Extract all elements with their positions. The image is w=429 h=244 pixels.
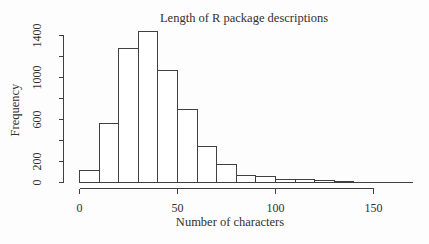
histogram-bar-120-130 xyxy=(315,181,335,183)
histogram-bar-60-70 xyxy=(197,147,217,183)
histogram-bar-50-60 xyxy=(178,109,198,183)
histogram-bar-110-120 xyxy=(295,180,315,183)
y-tick-label-600: 600 xyxy=(30,111,44,129)
x-tick-label-50: 50 xyxy=(172,201,184,215)
histogram-bar-130-140 xyxy=(334,181,354,182)
x-tick-label-150: 150 xyxy=(365,201,383,215)
histogram-plot-canvas: 020060010001400050100150 xyxy=(0,0,429,244)
histogram-bar-0-10 xyxy=(80,170,100,182)
x-tick-label-0: 0 xyxy=(77,201,83,215)
histogram-bar-20-30 xyxy=(119,48,139,182)
histogram-chart: 020060010001400050100150 Length of R pac… xyxy=(0,0,429,244)
chart-title: Length of R package descriptions xyxy=(59,11,429,25)
y-tick-label-200: 200 xyxy=(30,153,44,171)
histogram-bar-80-90 xyxy=(236,175,256,182)
histogram-bar-30-40 xyxy=(138,32,158,183)
x-tick-label-100: 100 xyxy=(267,201,285,215)
y-axis-label: Frequency xyxy=(8,60,22,160)
y-tick-label-0: 0 xyxy=(30,180,44,186)
y-tick-label-1000: 1000 xyxy=(30,66,44,90)
y-tick-label-1400: 1400 xyxy=(30,24,44,48)
histogram-bar-70-80 xyxy=(217,165,237,183)
x-axis-label: Number of characters xyxy=(79,215,381,229)
histogram-bar-10-20 xyxy=(99,124,119,183)
histogram-bar-90-100 xyxy=(256,177,276,183)
histogram-bar-100-110 xyxy=(276,179,296,182)
histogram-bar-40-50 xyxy=(158,70,178,182)
